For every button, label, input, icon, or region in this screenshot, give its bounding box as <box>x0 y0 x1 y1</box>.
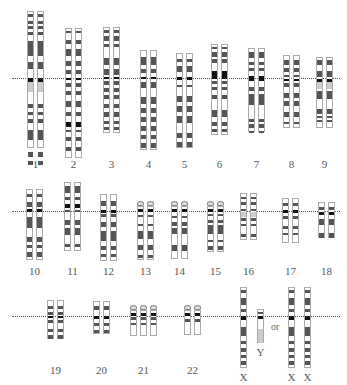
chromosome-7 <box>258 48 265 132</box>
chromosome-band <box>76 101 81 107</box>
chromosome-band <box>329 219 334 225</box>
chromosome-band <box>28 104 33 108</box>
chromosome-2 <box>75 28 82 158</box>
chromosome-band <box>293 216 298 219</box>
chromosome-band <box>138 245 143 250</box>
chromosome-band <box>66 83 71 87</box>
chromosome-label: 14 <box>165 265 195 277</box>
chromosome-19 <box>47 300 54 339</box>
chromosome-band <box>111 201 116 206</box>
chromosome-band <box>76 130 81 132</box>
chromosome-band <box>185 313 190 316</box>
chromosome-band <box>284 122 289 124</box>
chromosome-band <box>48 306 53 309</box>
chromosome-13 <box>137 206 144 260</box>
chromosome-band <box>148 209 153 212</box>
chromosome-22 <box>184 310 191 335</box>
chromosome-1 <box>37 11 44 148</box>
chromosome-band <box>75 197 80 200</box>
chromosome-band <box>294 93 299 98</box>
chromosome-band <box>187 106 192 112</box>
chromosome-band <box>114 81 119 85</box>
chromosome-band <box>305 327 310 336</box>
chromosome-X <box>304 287 311 368</box>
chromosome-band <box>75 228 80 235</box>
chromosome-band <box>101 231 106 241</box>
chromosome-band <box>289 355 294 358</box>
chromosome-band <box>212 52 217 57</box>
chromosome-band <box>327 60 332 65</box>
satellite-icon <box>207 201 214 206</box>
chromosome-band <box>66 137 71 141</box>
chromosome-band <box>141 97 146 104</box>
chromosome-band <box>58 316 63 318</box>
chromosome-band <box>241 202 246 205</box>
chromosome-band <box>27 245 32 248</box>
chromosome-band <box>294 101 299 106</box>
chromosome-band <box>114 104 119 108</box>
chromosome-band <box>114 121 119 124</box>
chromosome-band <box>182 216 187 218</box>
chromosome-band <box>241 327 246 336</box>
chromosome-band <box>327 82 332 89</box>
chromosome-band <box>294 122 299 124</box>
chromosome-band <box>177 96 182 102</box>
chromosome-band <box>94 323 99 326</box>
chromosome-band <box>241 298 246 305</box>
chromosome-band <box>27 209 32 212</box>
chromosome-band <box>104 95 109 99</box>
chromosome-band <box>317 109 322 114</box>
chromosome-band <box>258 316 263 319</box>
chromosome-band <box>28 32 33 35</box>
chromosome-band <box>37 217 42 228</box>
chromosome-band <box>212 110 217 117</box>
chromosome-band <box>28 152 33 157</box>
chromosome-band <box>294 68 299 72</box>
chromosome-band <box>151 323 156 325</box>
chromosome-band <box>212 87 217 90</box>
chromosome-9 <box>316 57 323 128</box>
chromosome-label: 2 <box>59 158 89 170</box>
chromosome-band <box>48 312 53 315</box>
chromosome-band <box>76 40 81 44</box>
chromosome-label: 13 <box>131 265 161 277</box>
chromosome-band <box>111 246 116 250</box>
chromosome-1 <box>27 11 34 148</box>
chromosome-13 <box>147 206 154 260</box>
chromosome-band <box>58 335 63 339</box>
chromosome-band <box>187 116 192 123</box>
chromosome-band <box>141 143 146 148</box>
chromosome-band <box>151 317 156 320</box>
chromosome-band <box>259 68 264 71</box>
chromosome-band <box>148 224 153 226</box>
chromosome-label: 8 <box>277 158 307 170</box>
chromosome-21 <box>150 310 157 336</box>
chromosome-band <box>251 212 256 217</box>
chromosome-band <box>249 124 254 128</box>
chromosome-band <box>104 77 109 79</box>
satellite-icon <box>217 201 224 206</box>
chromosome-band <box>222 110 227 117</box>
chromosome-band <box>141 313 146 316</box>
chromosome-band <box>222 59 227 63</box>
chromosome-band <box>284 79 289 81</box>
chromosome-band <box>138 209 143 212</box>
chromosome-band <box>76 49 81 56</box>
chromosome-band <box>65 204 70 208</box>
chromosome-band <box>249 119 254 122</box>
chromosome-band <box>131 313 136 316</box>
chromosome-band <box>76 78 81 80</box>
chromosome-band <box>141 317 146 320</box>
chromosome-band <box>222 87 227 90</box>
chromosome-8 <box>283 55 290 128</box>
chromosome-band <box>294 83 299 87</box>
chromosome-16 <box>250 193 257 240</box>
chromosome-17 <box>292 198 299 243</box>
chromosome-band <box>151 69 156 73</box>
chromosome-band <box>249 62 254 65</box>
chromosome-band <box>141 69 146 73</box>
satellite-icon <box>181 201 188 206</box>
chromosome-band <box>141 323 146 325</box>
chromosome-4 <box>140 50 147 150</box>
chromosome-band <box>317 91 322 99</box>
